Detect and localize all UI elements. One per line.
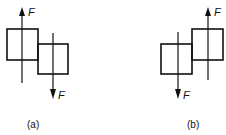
up-force-arrow-icon-a xyxy=(19,7,25,83)
figure-a: F F (a) xyxy=(7,6,68,130)
up-force-arrow-icon-b xyxy=(205,7,211,80)
up-force-label-b: F xyxy=(214,6,222,18)
caption-b: (b) xyxy=(187,119,199,130)
down-force-label-a: F xyxy=(58,89,66,101)
left-square-b xyxy=(161,44,192,74)
force-couple-diagram: F F (a) F F (b) xyxy=(0,0,226,135)
figure-b: F F (b) xyxy=(161,6,223,130)
down-force-label-b: F xyxy=(183,89,191,101)
up-force-label-a: F xyxy=(28,6,36,18)
down-force-arrow-icon-a xyxy=(50,33,56,99)
down-force-arrow-icon-b xyxy=(175,32,181,99)
caption-a: (a) xyxy=(27,119,39,130)
